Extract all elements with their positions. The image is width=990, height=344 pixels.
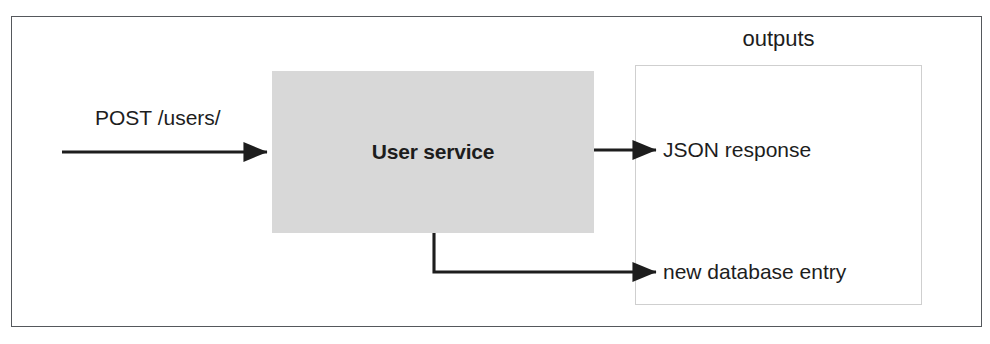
- service-node: User service: [272, 71, 594, 233]
- output-label-json-response: JSON response: [663, 139, 811, 160]
- request-label: POST /users/: [95, 107, 221, 128]
- service-node-label: User service: [272, 140, 594, 164]
- outputs-group-caption: outputs: [635, 26, 922, 52]
- diagram-canvas: User service outputs POST /users/ JSON r…: [0, 0, 990, 344]
- output-label-new-database-entry: new database entry: [663, 261, 846, 282]
